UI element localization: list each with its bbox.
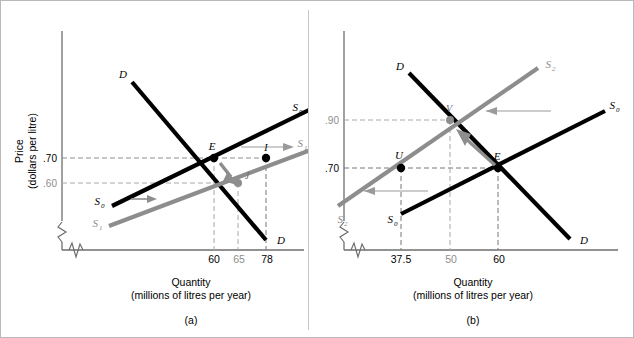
x-tick-50: 50 [445, 253, 457, 265]
supply-curve-s2 [338, 68, 538, 206]
x-tick-60: 60 [493, 253, 505, 265]
y-tick-090: .90 [325, 115, 339, 126]
x-tick-60: 60 [208, 253, 220, 265]
supply-0-lower-label: S 0 [388, 213, 399, 228]
demand-curve-d [409, 73, 570, 239]
x-tick-65: 65 [233, 253, 245, 265]
shift-arrow-lower [364, 187, 428, 195]
svg-text:S: S [95, 195, 101, 207]
supply-1-lower-label: S 1 [93, 217, 103, 232]
svg-text:0: 0 [394, 220, 398, 228]
panel-b: U V E D D S 0 S 0 S 2 S 2 .90 [308, 1, 634, 338]
supply-2-lower-label: S 2 [338, 213, 349, 228]
point-u-marker[interactable] [397, 164, 405, 172]
y-tick-070: .70 [325, 163, 339, 174]
point-e-marker[interactable] [494, 164, 502, 172]
svg-text:S: S [610, 99, 616, 111]
movement-arrow-e-to-v [456, 129, 496, 166]
svg-text:1: 1 [99, 224, 103, 232]
supply-0-lower-label: S 0 [95, 195, 106, 210]
point-e-label: E [493, 150, 501, 162]
x-axis-title-line1: Quantity [453, 276, 493, 288]
supply-0-upper-label: S 0 [610, 99, 621, 114]
y-axis-title-line1: Price [13, 139, 25, 163]
point-i-label: I [263, 142, 268, 153]
svg-text:S: S [338, 213, 344, 225]
panel-a: E J I D D S 0 S 0 S 1 S 1 .70 [1, 1, 308, 338]
point-i-marker[interactable] [262, 154, 270, 162]
demand-curve-d [132, 82, 266, 240]
supply-2-upper-label: S 2 [546, 58, 557, 73]
point-e-marker[interactable] [210, 154, 218, 162]
demand-lower-label: D [276, 234, 285, 246]
svg-text:S: S [93, 217, 99, 229]
y-tick-060: .60 [43, 178, 57, 189]
demand-lower-label: D [579, 234, 588, 246]
svg-text:S: S [293, 101, 299, 113]
y-axis-break-icon [58, 222, 66, 242]
y-axis-title-line2: (dollars per litre) [26, 113, 38, 189]
x-axis-title-line1: Quantity [171, 276, 211, 288]
demand-upper-label: D [118, 68, 127, 80]
panel-b-caption: (b) [467, 314, 480, 326]
point-v-label: V [446, 103, 454, 114]
shift-arrow-upper [486, 107, 551, 115]
svg-text:0: 0 [101, 202, 105, 210]
panel-a-plot: E J I D D S 0 S 0 S 1 S 1 .70 [1, 1, 308, 338]
x-axis-title-line2: (millions of litres per year) [413, 289, 533, 301]
point-j-label: J [245, 170, 250, 181]
svg-text:1: 1 [304, 144, 308, 152]
svg-text:2: 2 [344, 220, 348, 228]
supply-1-upper-label: S 1 [298, 137, 308, 152]
x-tick-78: 78 [261, 253, 273, 265]
svg-text:0: 0 [616, 106, 620, 114]
point-j-marker[interactable] [234, 179, 242, 187]
panel-b-plot: U V E D D S 0 S 0 S 2 S 2 .90 [308, 1, 634, 338]
svg-text:2: 2 [552, 65, 556, 73]
svg-text:S: S [388, 213, 394, 225]
demand-upper-label: D [395, 60, 404, 72]
point-v-marker[interactable] [446, 116, 454, 124]
figure-container: E J I D D S 0 S 0 S 1 S 1 .70 [0, 0, 634, 338]
svg-text:S: S [546, 58, 552, 70]
point-e-label: E [208, 140, 216, 152]
x-tick-375: 37.5 [391, 253, 412, 265]
panel-a-caption: (a) [185, 314, 198, 326]
svg-text:0: 0 [299, 108, 303, 116]
supply-curve-s0 [401, 111, 605, 214]
y-tick-070: .70 [43, 153, 57, 164]
svg-text:S: S [298, 137, 304, 149]
point-u-label: U [395, 149, 404, 161]
x-axis-title-line2: (millions of litres per year) [131, 289, 251, 301]
